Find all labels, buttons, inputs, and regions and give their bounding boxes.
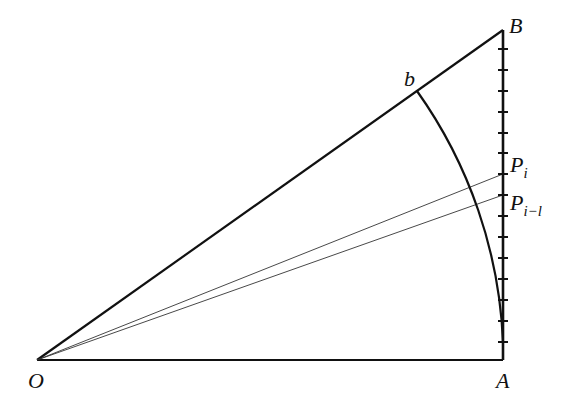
ray-O-Pim1 [37,195,503,360]
label-b: b [404,66,415,91]
label-Pi-sub: i [523,165,527,181]
ray-O-Pi [37,174,503,360]
geometry-diagram: O A B b Pi Pi−l [0,0,564,406]
label-Pim1-sub: i−l [523,203,541,219]
label-O: O [28,368,44,393]
segment-OB [37,30,503,360]
label-Pim1: Pi−l [509,190,542,219]
label-Pi: Pi [509,152,528,181]
arc-bA [417,91,503,342]
label-B: B [509,13,522,38]
label-Pi-main: P [509,152,523,177]
label-A: A [494,368,510,393]
label-Pim1-main: P [509,190,523,215]
